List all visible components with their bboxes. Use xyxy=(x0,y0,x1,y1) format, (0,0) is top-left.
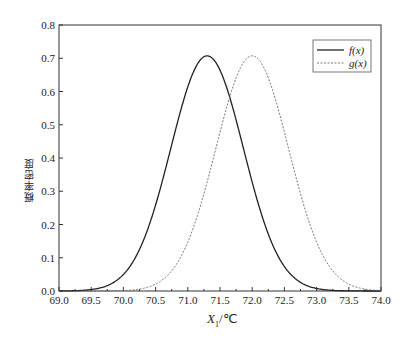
x-tick-label: 73.0 xyxy=(307,294,327,306)
y-tick-label: 0.4 xyxy=(41,152,55,164)
x-tick-label: 74.0 xyxy=(371,294,391,306)
legend-label: f(x) xyxy=(349,44,365,57)
x-tick-label: 72.5 xyxy=(275,294,295,306)
y-tick-label: 0.6 xyxy=(41,86,55,98)
x-axis-label-variable: X xyxy=(207,311,215,326)
y-tick-label: 0.0 xyxy=(41,285,55,297)
y-tick-label: 0.7 xyxy=(41,52,55,64)
x-tick-label: 71.5 xyxy=(210,294,230,306)
x-tick-label: 69.5 xyxy=(82,294,102,306)
y-tick-label: 0.3 xyxy=(41,185,55,197)
x-tick-label: 71.0 xyxy=(178,294,198,306)
x-tick-label: 70.5 xyxy=(146,294,166,306)
y-tick-label: 0.5 xyxy=(41,119,55,131)
x-tick-label: 70.0 xyxy=(114,294,134,306)
series-f-curve xyxy=(59,56,381,291)
x-axis-label: X1/℃ xyxy=(207,311,238,329)
x-axis-label-unit: /℃ xyxy=(219,311,238,326)
series-g-curve xyxy=(59,56,381,291)
chart-canvas: 69.069.570.070.571.071.572.072.573.073.5… xyxy=(0,0,408,342)
legend-label: g(x) xyxy=(349,57,367,70)
x-tick-label: 73.5 xyxy=(339,294,359,306)
y-tick-label: 0.8 xyxy=(41,19,55,31)
y-tick-label: 0.1 xyxy=(41,252,55,264)
x-tick-label: 72.0 xyxy=(243,294,263,306)
y-axis-label: 概率密度 xyxy=(22,158,37,202)
y-tick-label: 0.2 xyxy=(41,219,55,231)
